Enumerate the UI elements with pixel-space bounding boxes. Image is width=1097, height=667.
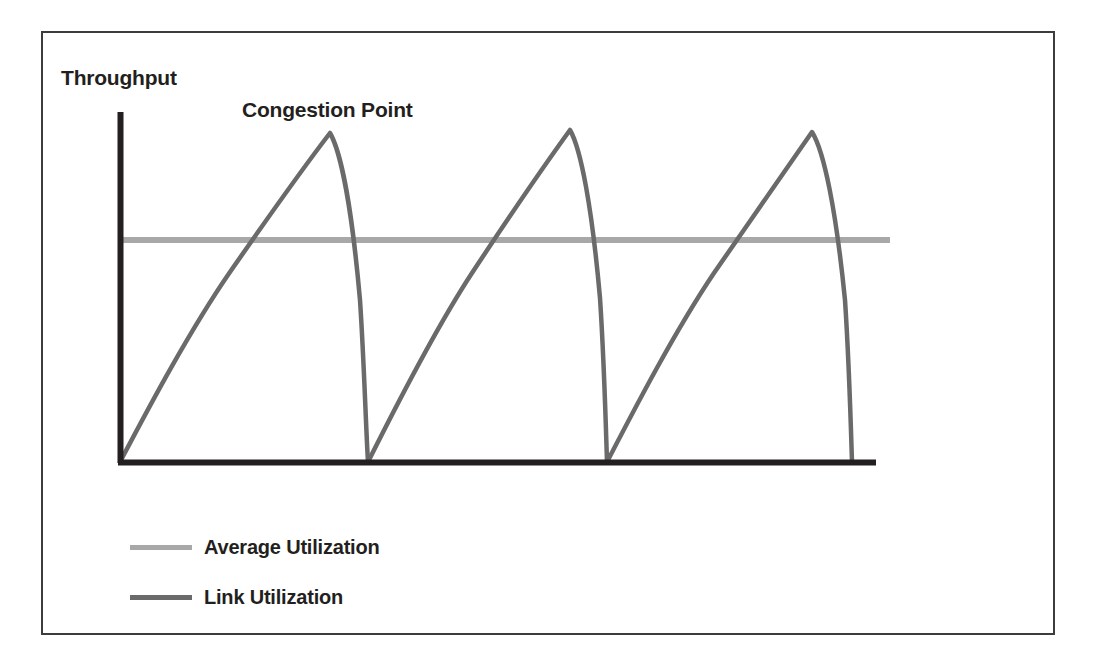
chart-plot-area — [0, 0, 1097, 667]
y-axis-title: Throughput — [61, 66, 177, 90]
figure-root: Throughput Congestion Point Average Util… — [0, 0, 1097, 667]
legend-swatch-average-utilization — [130, 545, 192, 550]
legend-item-average-utilization: Average Utilization — [130, 534, 380, 560]
legend-label-average-utilization: Average Utilization — [204, 536, 380, 559]
legend-item-link-utilization: Link Utilization — [130, 584, 343, 610]
legend-swatch-link-utilization — [130, 595, 192, 600]
series-link-utilization-cycle-3 — [607, 132, 852, 462]
series-link-utilization-cycle-1 — [120, 133, 368, 462]
series-link-utilization-cycle-2 — [368, 130, 607, 462]
legend-label-link-utilization: Link Utilization — [204, 586, 343, 609]
congestion-point-annotation: Congestion Point — [242, 98, 413, 122]
